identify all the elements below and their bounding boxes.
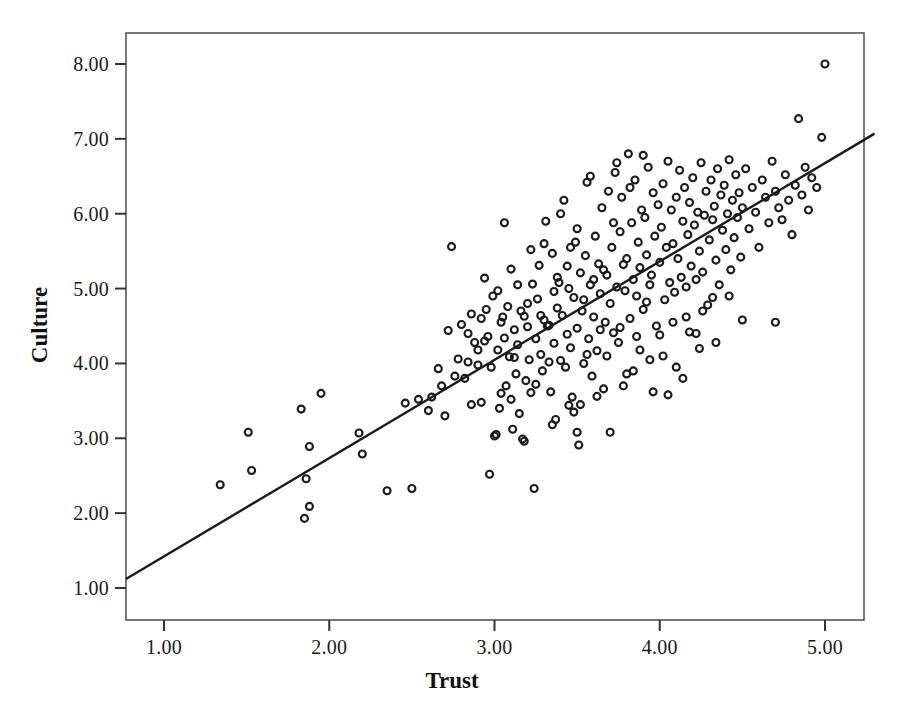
x-tick-label: 1.00 xyxy=(146,636,182,659)
y-tick-label: 3.00 xyxy=(40,427,109,450)
x-tick-label: 4.00 xyxy=(642,636,678,659)
data-points xyxy=(217,61,829,522)
x-tick-label: 2.00 xyxy=(311,636,347,659)
plot-frame xyxy=(126,33,864,620)
scatter-plot-figure: 1.002.003.004.005.006.007.008.00 1.002.0… xyxy=(0,0,904,727)
x-tick-label: 5.00 xyxy=(807,636,843,659)
x-axis-title: Trust xyxy=(0,668,904,694)
y-axis-title-text: Culture xyxy=(27,287,53,363)
y-tick-label: 6.00 xyxy=(40,202,109,225)
y-tick-label: 2.00 xyxy=(40,502,109,525)
x-tick-label: 3.00 xyxy=(477,636,513,659)
y-tick-label: 7.00 xyxy=(40,127,109,150)
plot-canvas xyxy=(0,0,904,727)
axis-ticks xyxy=(115,64,825,631)
y-tick-label: 8.00 xyxy=(40,53,109,76)
y-tick-label: 1.00 xyxy=(40,577,109,600)
regression-line xyxy=(126,134,875,579)
